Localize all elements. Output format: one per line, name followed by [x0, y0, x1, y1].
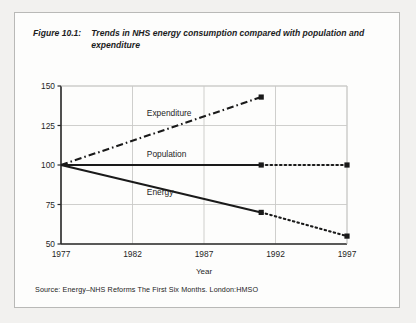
x-tick-label: 1992 — [266, 249, 285, 259]
y-tick-label: 75 — [46, 200, 56, 210]
y-tick-label: 100 — [41, 160, 55, 170]
y-tick-label: 125 — [41, 121, 55, 131]
x-axis-title: Year — [196, 267, 213, 276]
x-tick-label: 1982 — [123, 249, 142, 259]
series-projection-energy — [261, 212, 347, 236]
series-label-expenditure: Expenditure — [147, 108, 192, 118]
data-point-marker — [259, 210, 264, 215]
data-point-marker — [344, 234, 349, 239]
x-tick-label: 1987 — [195, 249, 214, 259]
source-note: Source: Energy–NHS Reforms The First Six… — [35, 285, 258, 294]
data-point-marker — [259, 162, 264, 167]
data-point-marker — [344, 162, 349, 167]
data-point-marker — [259, 94, 264, 99]
series-markers — [259, 94, 350, 238]
chart-plot: 5075100125150 19771982198719921997 Expen… — [15, 13, 401, 309]
series-labels: ExpenditurePopulationEnergy — [147, 108, 192, 197]
series-label-energy: Energy — [147, 187, 174, 197]
x-tick-label: 1997 — [338, 249, 357, 259]
x-tick-label: 1977 — [52, 249, 71, 259]
series-label-population: Population — [147, 149, 187, 159]
x-tick-labels: 19771982198719921997 — [52, 249, 357, 259]
y-tick-labels: 5075100125150 — [41, 81, 61, 249]
y-tick-label: 50 — [46, 239, 56, 249]
y-tick-label: 150 — [41, 81, 55, 91]
figure-card: Figure 10.1: Trends in NHS energy consum… — [14, 12, 400, 308]
